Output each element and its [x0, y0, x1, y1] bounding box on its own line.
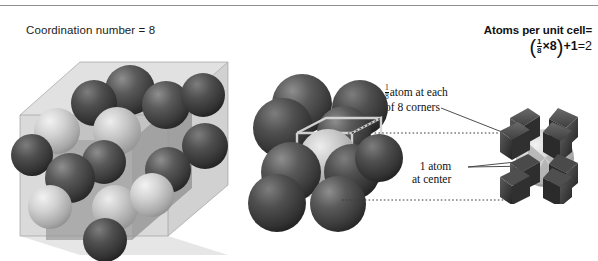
bcc-structure-figure: Coordination number = 8 Atoms per unit c…: [0, 0, 598, 261]
atom-dark: [248, 174, 306, 232]
atom-dark: [355, 134, 403, 182]
atom-dark: [83, 218, 127, 261]
atom-light: [130, 173, 174, 217]
atom-light: [28, 185, 72, 229]
corner-octant: [500, 168, 530, 205]
panel-coordination-diagram: [11, 62, 228, 261]
figure-artwork: [0, 0, 598, 261]
atom-dark: [310, 176, 366, 232]
atom-dark: [181, 73, 225, 117]
panel-bcc-space-filling: [248, 74, 403, 232]
panel-bcc-unit-cell: [500, 108, 578, 207]
leader-corner-atoms: [441, 108, 507, 134]
